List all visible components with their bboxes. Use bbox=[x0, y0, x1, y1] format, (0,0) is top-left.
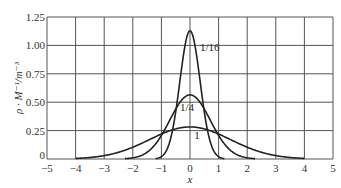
y-ticks: 00.250.500.751.001.25 bbox=[26, 11, 46, 161]
y-tick-label: 0.25 bbox=[26, 125, 46, 137]
y-axis-label: ρ · M⁻¹/m⁻³ bbox=[12, 61, 24, 115]
y-tick-label: 1.25 bbox=[26, 11, 46, 23]
y-tick-label: 0.75 bbox=[26, 68, 46, 80]
x-tick-label: −4 bbox=[70, 162, 82, 174]
chart: −5−4−3−2−1012345 00.250.500.751.001.25 1… bbox=[0, 0, 341, 188]
x-tick-label: 3 bbox=[273, 162, 279, 174]
y-tick-label: 0 bbox=[40, 149, 46, 161]
x-axis-label: x bbox=[187, 173, 193, 185]
y-tick-label: 1.00 bbox=[26, 39, 46, 51]
x-tick-label: 1 bbox=[216, 162, 222, 174]
x-tick-label: 5 bbox=[330, 162, 336, 174]
curve-label: 1/16 bbox=[200, 41, 220, 53]
curve-label: 1/4 bbox=[180, 101, 195, 113]
x-tick-label: −2 bbox=[127, 162, 139, 174]
x-tick-label: 2 bbox=[244, 162, 250, 174]
x-tick-label: −3 bbox=[98, 162, 110, 174]
curve-label: 1 bbox=[194, 129, 200, 141]
annotations: 1/161/41 bbox=[180, 41, 220, 140]
y-tick-label: 0.50 bbox=[26, 96, 46, 108]
x-tick-label: 4 bbox=[302, 162, 308, 174]
x-tick-label: −1 bbox=[156, 162, 168, 174]
x-tick-label: −5 bbox=[41, 162, 53, 174]
grid bbox=[47, 17, 333, 159]
